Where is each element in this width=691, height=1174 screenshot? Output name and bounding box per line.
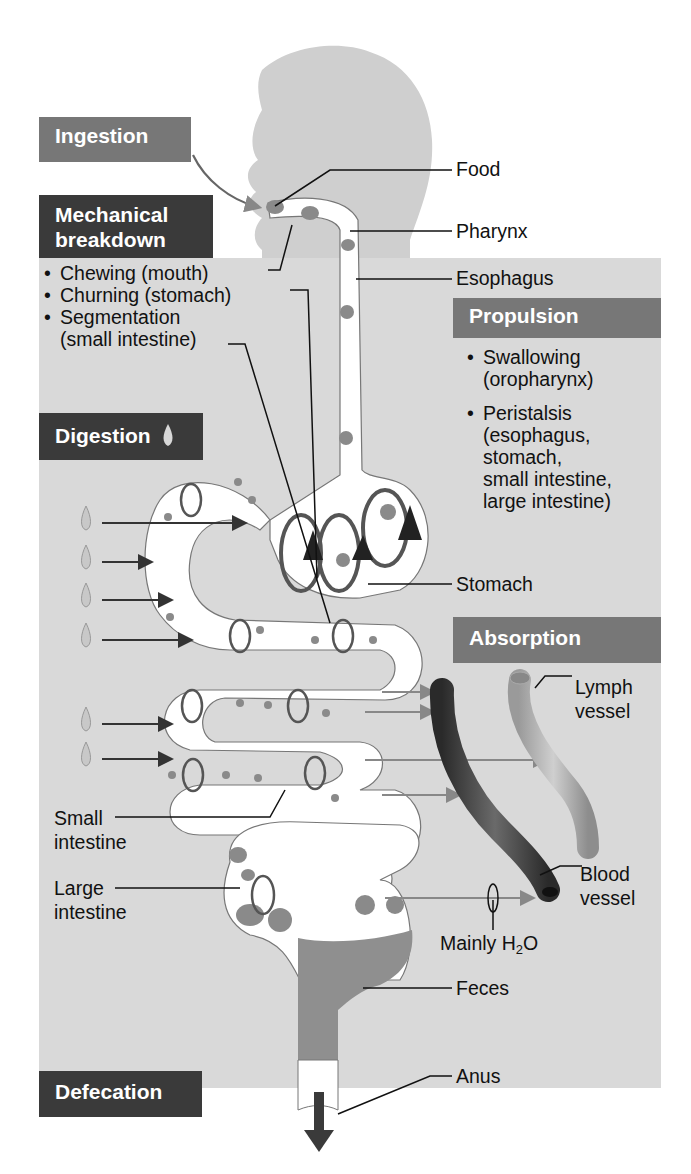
label-anus: Anus xyxy=(456,1065,500,1087)
enzyme-droplet-icon xyxy=(161,423,175,447)
tag-digestion: Digestion xyxy=(39,413,203,460)
bullet-chewing: Chewing (mouth) xyxy=(44,262,231,284)
label-feces: Feces xyxy=(456,977,509,999)
label-small-intestine: Small intestine xyxy=(54,806,127,854)
mechanical-breakdown-list: Chewing (mouth) Churning (stomach) Segme… xyxy=(44,262,231,350)
propulsion-list: Swallowing (oropharynx) Peristalsis (eso… xyxy=(467,346,612,512)
rectum-feces xyxy=(298,930,412,1060)
bullet-segmentation: Segmentation xyxy=(44,306,231,328)
digestive-tract-illustration xyxy=(0,0,691,1174)
bullet-swallowing: Swallowing (oropharynx) xyxy=(467,346,612,390)
tag-absorption: Absorption xyxy=(453,617,661,663)
enzyme-droplets xyxy=(82,506,91,766)
label-lymph-vessel: Lymph vessel xyxy=(575,675,633,723)
label-pharynx: Pharynx xyxy=(456,220,528,242)
label-mainly-h2o: Mainly H2O xyxy=(440,932,538,961)
label-food: Food xyxy=(456,158,500,180)
label-stomach: Stomach xyxy=(456,573,533,595)
digestive-processes-diagram: Ingestion Mechanical breakdown Digestion… xyxy=(0,0,691,1174)
label-large-intestine: Large intestine xyxy=(54,876,127,924)
tag-propulsion: Propulsion xyxy=(453,298,661,338)
tag-mechanical-breakdown: Mechanical breakdown xyxy=(39,195,213,258)
label-esophagus: Esophagus xyxy=(456,267,554,289)
bullet-churning: Churning (stomach) xyxy=(44,284,231,306)
tag-defecation: Defecation xyxy=(39,1071,202,1117)
bullet-peristalsis: Peristalsis (esophagus, stomach, small i… xyxy=(467,402,612,512)
label-blood-vessel: Blood vessel xyxy=(580,862,635,910)
tag-ingestion: Ingestion xyxy=(39,117,191,162)
bullet-segmentation-location: (small intestine) xyxy=(44,328,231,350)
